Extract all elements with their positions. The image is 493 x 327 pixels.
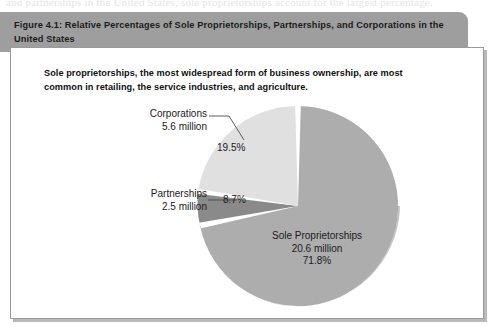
label-partnerships: Partnerships 2.5 million: [85, 188, 207, 213]
page-text-bleed-line: and partnerships in the United States, s…: [6, 0, 433, 8]
figure-title: Figure 4.1: Relative Percentages of Sole…: [14, 18, 452, 46]
label-sole-count: 20.6 million: [247, 243, 387, 256]
pie-chart: Corporations 5.6 million 19.5% Partnersh…: [11, 48, 485, 320]
label-corporations-count: 5.6 million: [107, 121, 207, 134]
figure-container: Figure 4.1: Relative Percentages of Sole…: [0, 12, 484, 324]
label-corporations-percent: 19.5%: [217, 142, 245, 155]
label-partnerships-count: 2.5 million: [85, 201, 207, 214]
figure-header-bar: Figure 4.1: Relative Percentages of Sole…: [0, 12, 468, 52]
label-corporations: Corporations 5.6 million: [107, 108, 207, 133]
label-corporations-name: Corporations: [107, 108, 207, 121]
label-sole-proprietorships: Sole Proprietorships 20.6 million 71.8%: [247, 230, 387, 268]
label-sole-percent: 71.8%: [247, 255, 387, 268]
pie-chart-svg: [11, 48, 485, 320]
label-partnerships-percent: 8.7%: [223, 194, 246, 207]
label-partnerships-name: Partnerships: [85, 188, 207, 201]
page-text-bleed: and partnerships in the United States, s…: [0, 0, 493, 12]
label-sole-name: Sole Proprietorships: [247, 230, 387, 243]
figure-body-panel: Sole proprietorships, the most widesprea…: [10, 47, 484, 319]
pie-slice-corporations: [198, 106, 298, 206]
